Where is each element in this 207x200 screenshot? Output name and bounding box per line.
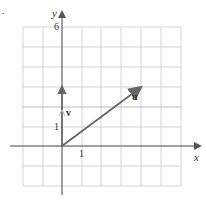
y-tick-6: 6: [54, 22, 59, 32]
vector-u-label: u: [132, 92, 138, 102]
figure-marker: .: [2, 6, 5, 16]
coordinate-plane: [0, 0, 207, 200]
y-tick-1: 1: [54, 122, 59, 132]
y-axis-label: y: [52, 8, 57, 19]
grid: [23, 27, 181, 186]
vector-v-label: v: [66, 108, 71, 118]
tick-dot: [120, 145, 122, 147]
x-tick-1: 1: [79, 149, 84, 159]
x-axis-label: x: [194, 152, 199, 163]
